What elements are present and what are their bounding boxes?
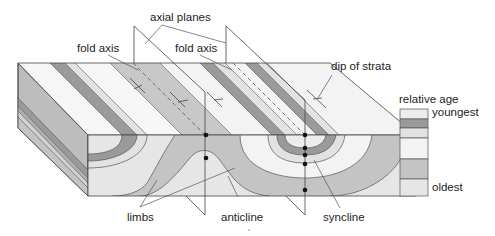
label-syncline: syncline	[323, 211, 365, 223]
legend-layer-2	[400, 119, 428, 128]
block-diagram-svg: axial planes fold axis fold axis dip of …	[0, 0, 495, 236]
legend-oldest: oldest	[432, 181, 463, 193]
fold-diagram: axial planes fold axis fold axis dip of …	[0, 0, 495, 236]
stray-dot	[248, 229, 250, 231]
legend-layer-6	[400, 179, 428, 196]
relative-age-legend: relative age youngest oldest	[399, 93, 479, 196]
label-dip-of-strata: dip of strata	[331, 60, 392, 72]
label-fold-axis-left: fold axis	[77, 42, 119, 54]
label-limbs: limbs	[127, 211, 154, 223]
label-anticline: anticline	[221, 211, 263, 223]
legend-layer-5	[400, 159, 428, 179]
front-face	[88, 135, 416, 196]
top-face	[18, 63, 416, 135]
legend-layer-3	[400, 128, 428, 138]
legend-layer-4	[400, 138, 428, 159]
label-axial-planes: axial planes	[150, 11, 211, 23]
legend-youngest: youngest	[432, 106, 479, 118]
legend-layer-1	[400, 109, 428, 119]
legend-title: relative age	[399, 93, 458, 105]
label-fold-axis-right: fold axis	[175, 42, 217, 54]
